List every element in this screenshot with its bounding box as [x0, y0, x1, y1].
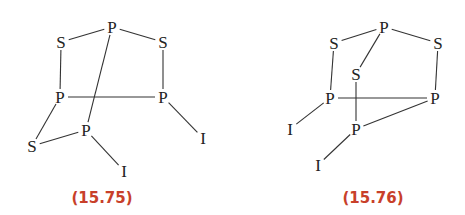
bond-P-S: [36, 104, 56, 139]
atom-i: I: [287, 120, 293, 139]
atom-s: S: [158, 33, 167, 52]
structure-15-75: PSSPPPSII(15.75): [27, 18, 206, 207]
bond-S-P: [435, 51, 437, 90]
atom-i: I: [315, 156, 321, 175]
atom-p: P: [430, 89, 439, 108]
atom-s: S: [27, 137, 36, 156]
bond-P-I: [169, 103, 198, 133]
bond-P-I: [296, 103, 323, 124]
bond-P-P: [363, 101, 427, 126]
atom-i: I: [200, 129, 206, 148]
molecule-diagram: PSSPPPSII(15.75) PSSSPPPII(15.76): [0, 0, 465, 215]
bond-P-P: [88, 35, 110, 122]
structure-15-76: PSSSPPPII(15.76): [287, 18, 443, 207]
atom-p: P: [107, 18, 116, 37]
bond-P-I: [324, 135, 350, 160]
bond-P-S: [342, 29, 377, 40]
atom-s: S: [329, 34, 338, 53]
atom-p: P: [55, 88, 64, 107]
bond-P-S: [360, 34, 380, 67]
atom-p: P: [325, 89, 334, 108]
bond-S-P: [60, 50, 61, 89]
atom-p: P: [158, 88, 167, 107]
bond-P-S: [120, 29, 156, 39]
bond-P-S: [40, 132, 79, 143]
structure-label: (15.76): [342, 189, 403, 207]
atom-s: S: [351, 65, 360, 84]
atom-s: S: [56, 33, 65, 52]
structure-label: (15.75): [71, 189, 132, 207]
atom-s: S: [433, 34, 442, 53]
bond-P-S: [69, 29, 105, 39]
bond-P-S: [392, 29, 431, 40]
atom-p: P: [81, 121, 90, 140]
atom-i: I: [121, 162, 127, 181]
bond-P-I: [91, 136, 118, 165]
bond-S-P: [331, 51, 334, 90]
atom-p: P: [379, 18, 388, 37]
atom-p: P: [351, 120, 360, 139]
